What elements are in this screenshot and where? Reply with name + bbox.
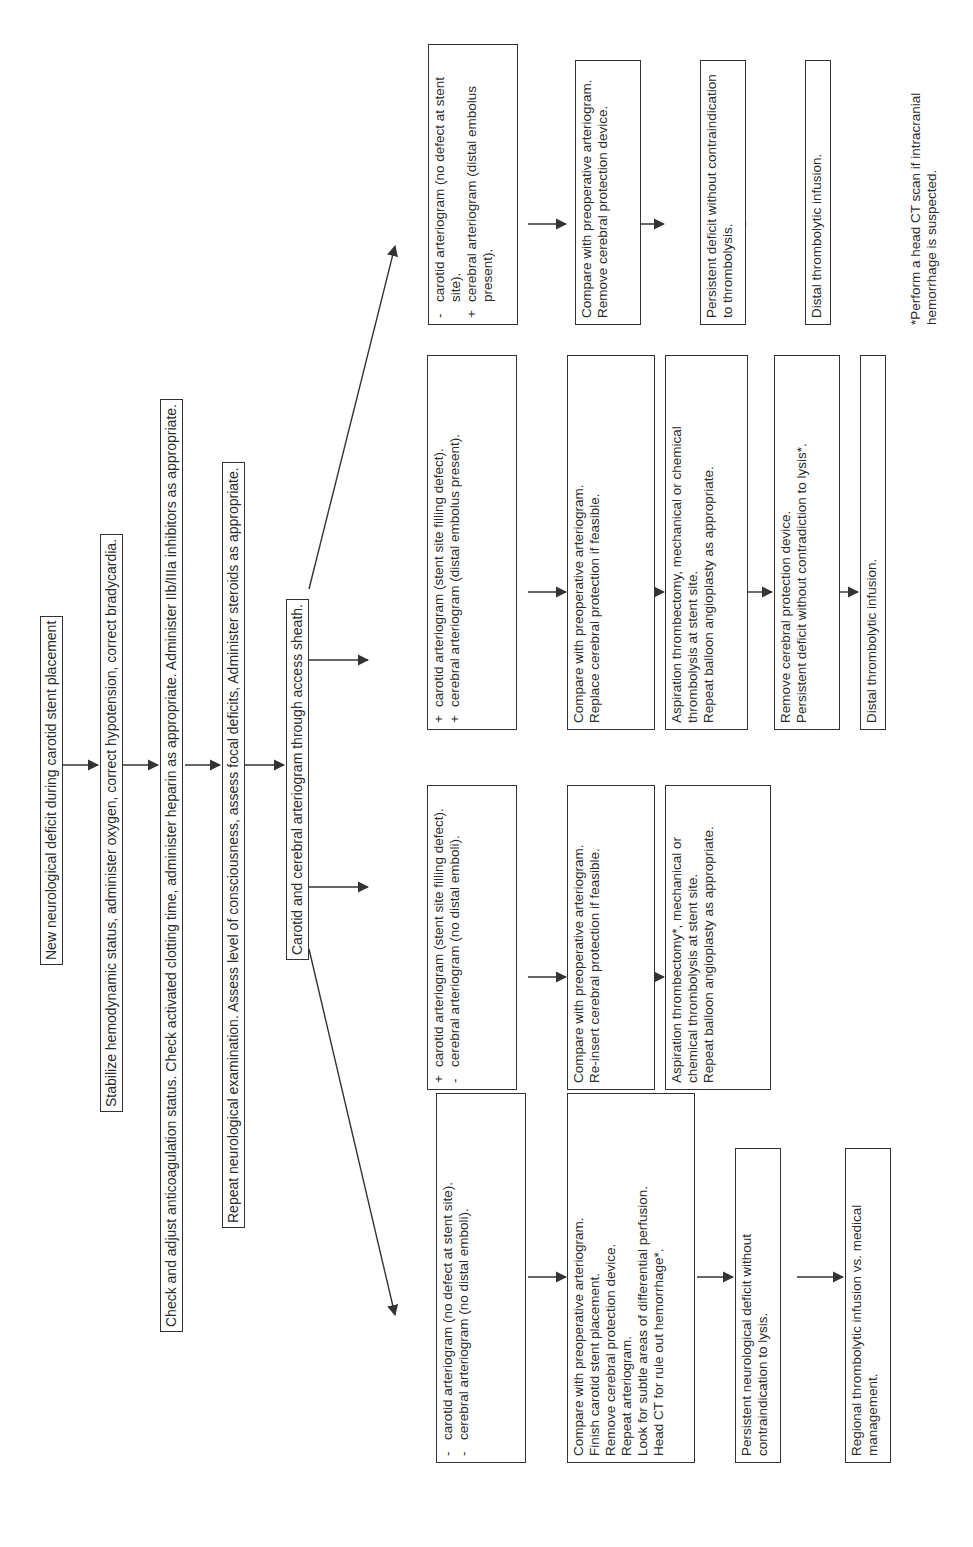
anticoagulation-box: Check and adjust anticoagulation status.…: [160, 399, 183, 1332]
step-line: Distal thrombolytic infusion.: [864, 362, 880, 723]
finding-sign: +: [447, 707, 463, 723]
step-line: Repeat balloon angioplasty as appropriat…: [701, 362, 717, 723]
finding-sign: +: [431, 707, 447, 723]
step-line: Finish carotid stent placement.: [587, 1100, 603, 1456]
new-deficit-box: New neurological deficit during carotid …: [40, 616, 63, 965]
step-line: Remove cerebral protection device.: [595, 67, 611, 318]
branch-1-findings: -carotid arteriogram (no defect at stent…: [436, 1093, 526, 1463]
branch-2-step-1: Compare with preoperative arteriogram. R…: [567, 785, 655, 1090]
branch-4-step-3: Distal thrombolytic infusion.: [805, 60, 831, 325]
finding-sign: -: [432, 302, 464, 318]
finding-sign: -: [440, 1440, 456, 1456]
step-line: Repeat arteriogram.: [619, 1100, 635, 1456]
step-line: Remove cerebral protection device.: [603, 1100, 619, 1456]
footnote: *Perform a head CT scan if intracranial …: [908, 35, 940, 325]
branch-3-findings: +carotid arteriogram (stent site filling…: [427, 355, 517, 730]
branch-1-step-2: Persistent neurological deficit without …: [735, 1148, 781, 1463]
branch-3-step-4: Distal thrombolytic infusion.: [860, 355, 886, 730]
branch-1-step-1: Compare with preoperative arteriogram. F…: [567, 1093, 695, 1463]
step-line: Persistent deficit without contradiction…: [794, 362, 810, 723]
repeat-exam-box: Repeat neurological examination. Assess …: [222, 462, 245, 1228]
step-line: Persistent neurological deficit without …: [739, 1155, 771, 1456]
step-line: Look for subtle areas of differential pe…: [635, 1100, 651, 1456]
step-line: Compare with preoperative arteriogram.: [571, 362, 587, 723]
branch-3-step-1: Compare with preoperative arteriogram. R…: [567, 355, 655, 730]
step-line: Persistent deficit without contraindicat…: [704, 67, 736, 318]
step-line: Compare with preoperative arteriogram.: [571, 792, 587, 1083]
finding-sign: +: [431, 1067, 447, 1083]
finding-text: cerebral arteriogram (no distal emboli).: [456, 1208, 472, 1440]
step-line: Regional thrombolytic infusion vs. medic…: [849, 1155, 881, 1456]
branch-3-step-3: Remove cerebral protection device. Persi…: [774, 355, 840, 730]
finding-text: carotid arteriogram (stent site filling …: [431, 448, 447, 707]
step-line: Head CT for rule out hemorrhage*.: [651, 1100, 667, 1456]
finding-text: carotid arteriogram (no defect at stent …: [432, 51, 464, 302]
finding-text: cerebral arteriogram (distal embolus pre…: [464, 51, 496, 302]
branch-1-step-3: Regional thrombolytic infusion vs. medic…: [845, 1148, 891, 1463]
step-line: Aspiration thrombectomy, mechanical or c…: [669, 362, 701, 723]
step-line: Distal thrombolytic infusion.: [809, 67, 825, 318]
stabilize-box: Stabilize hemodynamic status, administer…: [100, 534, 123, 1112]
branch-2-step-2: Aspiration thrombectomy*, mechanical or …: [665, 785, 771, 1090]
branch-3-step-2: Aspiration thrombectomy, mechanical or c…: [665, 355, 748, 730]
branch-2-findings: +carotid arteriogram (stent site filling…: [427, 785, 517, 1090]
finding-text: cerebral arteriogram (distal embolus pre…: [447, 434, 463, 707]
step-line: Remove cerebral protection device.: [778, 362, 794, 723]
step-line: Compare with preoperative arteriogram.: [571, 1100, 587, 1456]
finding-sign: -: [456, 1440, 472, 1456]
step-line: Repeat balloon angioplasty as appropriat…: [701, 792, 717, 1083]
arteriogram-box: Carotid and cerebral arteriogram through…: [286, 599, 309, 960]
finding-text: carotid arteriogram (stent site filling …: [431, 808, 447, 1067]
branch-4-step-2: Persistent deficit without contraindicat…: [700, 60, 746, 325]
step-line: Replace cerebral protection if feasible.: [587, 362, 603, 723]
flowchart-canvas: New neurological deficit during carotid …: [0, 0, 973, 1547]
finding-text: carotid arteriogram (no defect at stent …: [440, 1182, 456, 1440]
branch-4-findings: -carotid arteriogram (no defect at stent…: [428, 44, 518, 325]
step-line: Aspiration thrombectomy*, mechanical or …: [669, 792, 701, 1083]
finding-sign: -: [447, 1067, 463, 1083]
finding-text: cerebral arteriogram (no distal emboli).: [447, 835, 463, 1067]
step-line: Compare with preoperative arteriogram.: [579, 67, 595, 318]
branch-4-step-1: Compare with preoperative arteriogram. R…: [575, 60, 641, 325]
step-line: Re-insert cerebral protection if feasibl…: [587, 792, 603, 1083]
finding-sign: +: [464, 302, 496, 318]
